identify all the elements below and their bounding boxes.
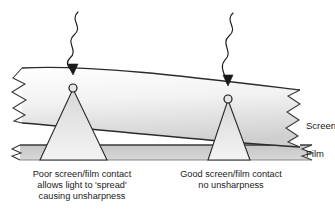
left-caption: Poor screen/film contact allows light to…: [33, 169, 132, 201]
right-xray-wave: [222, 13, 233, 83]
wavy-xray-arrow-left: [67, 12, 78, 75]
left-xray-wave: [67, 12, 78, 72]
right-caption: Good screen/film contact no unsharpness: [180, 169, 282, 190]
left-caption-line-3: causing unsharpness: [39, 191, 126, 201]
right-caption-line-2: no unsharpness: [198, 180, 264, 190]
screen-label: Screen: [306, 120, 335, 131]
left-caption-line-2: allows light to 'spread': [37, 180, 127, 190]
diagram-canvas: Screen Film Poor screen/film contact all…: [0, 0, 335, 209]
light-emission-point-right: [224, 95, 232, 103]
right-caption-line-1: Good screen/film contact: [180, 169, 282, 179]
film-label: Film: [306, 148, 324, 159]
screen-film-contact-diagram: Screen Film Poor screen/film contact all…: [0, 0, 335, 209]
wavy-xray-arrow-right: [222, 13, 233, 86]
left-caption-line-1: Poor screen/film contact: [33, 169, 132, 179]
film-break-left: [12, 145, 21, 160]
light-emission-point-left: [69, 84, 77, 92]
